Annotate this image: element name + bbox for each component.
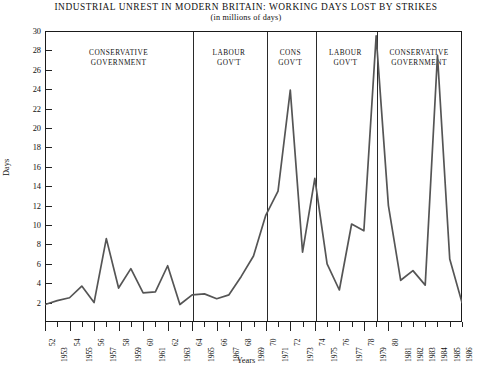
x-tick-mark (45, 322, 46, 331)
x-tick-mark (241, 322, 242, 331)
x-tick-mark (143, 322, 144, 331)
x-tick-mark (254, 322, 255, 327)
x-tick-label: 1971 (281, 347, 290, 362)
x-tick-mark (94, 322, 95, 331)
x-tick-mark (70, 322, 71, 331)
strike-days-line-series (45, 31, 462, 322)
x-tick-label: 1965 (207, 347, 216, 362)
y-tick-label: 20 (23, 124, 41, 133)
x-tick-label: 70 (269, 339, 278, 346)
chart-title-block: INDUSTRIAL UNREST IN MODERN BRITAIN: WOR… (0, 2, 492, 22)
x-tick-label: 56 (97, 339, 106, 346)
chart-container: INDUSTRIAL UNREST IN MODERN BRITAIN: WOR… (0, 0, 492, 376)
x-tick-mark (413, 322, 414, 327)
x-tick-mark (57, 322, 58, 327)
chart-title: INDUSTRIAL UNREST IN MODERN BRITAIN: WOR… (0, 2, 492, 12)
y-tick-label: 18 (23, 143, 41, 152)
y-tick-label: 10 (23, 221, 41, 230)
y-tick-label: 12 (23, 201, 41, 210)
x-tick-label: 52 (48, 339, 57, 346)
x-tick-mark (106, 322, 107, 327)
x-tick-label: 1961 (158, 347, 167, 362)
x-tick-mark (204, 322, 205, 327)
x-tick-label: 54 (73, 339, 82, 346)
x-tick-label: 1985 (453, 347, 462, 362)
y-tick-label: 22 (23, 104, 41, 113)
y-tick-label: 8 (23, 240, 41, 249)
x-tick-mark (462, 322, 463, 327)
x-tick-label: 1975 (330, 347, 339, 362)
x-tick-mark (437, 322, 438, 327)
x-tick-label: 78 (367, 339, 376, 346)
x-tick-mark (131, 322, 132, 327)
y-tick-label: 16 (23, 162, 41, 171)
strike-days-line (45, 36, 462, 305)
x-tick-label: 1981 (404, 347, 413, 362)
x-tick-label: 1982 (416, 347, 425, 362)
x-tick-mark (364, 322, 365, 331)
y-tick-label: 28 (23, 46, 41, 55)
x-tick-mark (425, 322, 426, 327)
x-tick-label: 1977 (355, 347, 364, 362)
x-tick-label: 62 (171, 339, 180, 346)
x-tick-label: 74 (318, 339, 327, 346)
y-tick-label: 6 (23, 259, 41, 268)
x-tick-label: 66 (220, 339, 229, 346)
y-tick-label: 2 (23, 298, 41, 307)
x-tick-label: 64 (195, 339, 204, 346)
x-tick-label: 1963 (183, 347, 192, 362)
x-tick-mark (376, 322, 377, 327)
y-tick-label: 30 (23, 27, 41, 36)
x-tick-mark (401, 322, 402, 327)
x-tick-label: 1986 (465, 347, 474, 362)
x-tick-label: 1983 (428, 347, 437, 362)
x-tick-mark (339, 322, 340, 331)
x-tick-label: 1967 (232, 347, 241, 362)
x-tick-label: 68 (244, 339, 253, 346)
x-tick-mark (303, 322, 304, 327)
x-tick-mark (119, 322, 120, 331)
x-tick-label: 1969 (257, 347, 266, 362)
y-axis-title: Days (2, 159, 11, 176)
x-tick-mark (388, 322, 389, 331)
x-tick-label: 1957 (109, 347, 118, 362)
x-tick-label: 58 (122, 339, 131, 346)
x-tick-label: 76 (342, 339, 351, 346)
x-tick-label: 72 (293, 339, 302, 346)
x-tick-mark (278, 322, 279, 327)
x-tick-label: 1984 (440, 347, 449, 362)
x-tick-mark (168, 322, 169, 331)
x-tick-mark (229, 322, 230, 327)
chart-subtitle: (in millions of days) (0, 13, 492, 22)
x-tick-mark (352, 322, 353, 327)
x-tick-label: 1959 (134, 347, 143, 362)
x-tick-mark (315, 322, 316, 331)
x-tick-label: 1953 (60, 347, 69, 362)
x-tick-mark (155, 322, 156, 327)
y-tick-label: 4 (23, 279, 41, 288)
x-tick-label: 80 (391, 339, 400, 346)
y-tick-label: 14 (23, 182, 41, 191)
x-tick-mark (180, 322, 181, 327)
y-tick-label: 26 (23, 65, 41, 74)
x-tick-label: 60 (146, 339, 155, 346)
x-tick-label: 1955 (85, 347, 94, 362)
x-tick-label: 1979 (379, 347, 388, 362)
x-tick-mark (327, 322, 328, 327)
x-tick-mark (82, 322, 83, 327)
y-tick-label: 24 (23, 85, 41, 94)
x-tick-mark (290, 322, 291, 331)
x-tick-mark (450, 322, 451, 327)
x-tick-mark (266, 322, 267, 331)
x-tick-label: 1973 (306, 347, 315, 362)
x-tick-mark (192, 322, 193, 331)
x-tick-mark (217, 322, 218, 331)
